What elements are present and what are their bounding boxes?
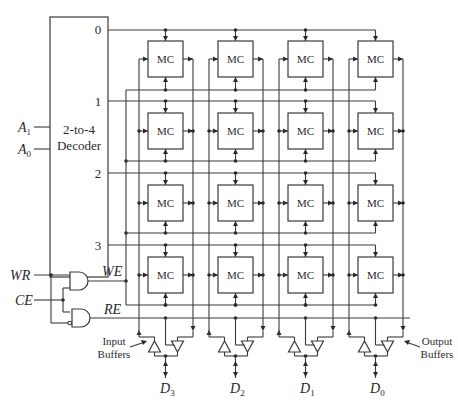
- memory-cell-label: MC: [367, 53, 384, 65]
- memory-cell-label: MC: [157, 125, 174, 137]
- memory-cell: MC: [358, 41, 393, 77]
- output-buffer-icon: [312, 341, 324, 352]
- buffer-pair: [347, 318, 406, 378]
- memory-cell-label: MC: [157, 269, 174, 281]
- memory-cell-label: MC: [297, 53, 314, 65]
- and-gate-we: [70, 272, 88, 290]
- memory-cell-label: MC: [297, 269, 314, 281]
- memory-cell: MC: [148, 185, 183, 221]
- output-buffers-label-line2: Buffers: [421, 348, 454, 360]
- control-logic: WR CE WE RE: [10, 264, 410, 327]
- re-label: RE: [103, 302, 122, 317]
- input-buffers-label-line2: Buffers: [98, 348, 131, 360]
- decoder-label-line1: 2-to-4: [63, 122, 95, 137]
- and-gate-re: [72, 309, 90, 327]
- memory-cell-label: MC: [227, 197, 244, 209]
- memory-cell: MC: [148, 41, 183, 77]
- memory-cell-label: MC: [227, 125, 244, 137]
- memory-cell: MC: [288, 257, 323, 293]
- decoder-output-0: 0: [95, 22, 102, 37]
- memory-array-diagram: 2-to-4 Decoder A1 A0 0 1 2 3 MCMCMCMCMCM…: [0, 0, 458, 405]
- buffer-pair: [277, 318, 336, 378]
- input-buffer-icon: [289, 341, 301, 352]
- memory-cell-label: MC: [367, 125, 384, 137]
- io-buffers: [137, 318, 406, 378]
- decoder-block: 2-to-4 Decoder A1 A0 0 1 2 3: [17, 17, 108, 277]
- output-buffer-icon: [382, 341, 394, 352]
- output-buffers-label-line1: Output: [422, 335, 453, 347]
- input-buffers-label-line1: Input: [102, 335, 125, 347]
- memory-cell: MC: [148, 113, 183, 149]
- data-line-d3: D3: [159, 381, 175, 398]
- output-buffer-icon: [172, 341, 184, 352]
- decoder-output-1: 1: [95, 94, 102, 109]
- decoder-output-2: 2: [95, 166, 102, 181]
- address-input-a1: A1: [17, 120, 31, 137]
- data-line-d2: D2: [229, 381, 245, 398]
- we-label: WE: [102, 264, 123, 279]
- input-buffer-icon: [219, 341, 231, 352]
- memory-cell-label: MC: [227, 53, 244, 65]
- memory-cell: MC: [358, 185, 393, 221]
- memory-cell: MC: [148, 257, 183, 293]
- decoder-output-3: 3: [95, 238, 102, 253]
- memory-cell: MC: [218, 185, 253, 221]
- data-line-d1: D1: [299, 381, 315, 398]
- arrow-icon: [404, 340, 410, 345]
- memory-cell-label: MC: [157, 53, 174, 65]
- ce-input-label: CE: [15, 293, 33, 308]
- buffer-pair: [207, 318, 266, 378]
- buffer-pair: [137, 318, 196, 378]
- memory-cell-label: MC: [367, 197, 384, 209]
- memory-cell: MC: [358, 257, 393, 293]
- data-line-d0: D0: [369, 381, 385, 398]
- memory-cell: MC: [218, 113, 253, 149]
- memory-cell-label: MC: [367, 269, 384, 281]
- memory-cell: MC: [358, 113, 393, 149]
- memory-cell-grid: MCMCMCMCMCMCMCMCMCMCMCMCMCMCMCMC: [108, 28, 405, 330]
- decoder-label-line2: Decoder: [57, 138, 102, 153]
- memory-cell-label: MC: [297, 125, 314, 137]
- input-buffer-icon: [149, 341, 161, 352]
- memory-cell: MC: [218, 257, 253, 293]
- memory-cell: MC: [288, 41, 323, 77]
- input-buffer-icon: [359, 341, 371, 352]
- memory-cell: MC: [288, 113, 323, 149]
- address-input-a0: A0: [17, 142, 32, 159]
- memory-cell: MC: [288, 185, 323, 221]
- memory-cell-label: MC: [227, 269, 244, 281]
- memory-cell-label: MC: [157, 197, 174, 209]
- wr-input-label: WR: [10, 268, 31, 283]
- memory-cell-label: MC: [297, 197, 314, 209]
- data-line-labels: D3 D2 D1 D0: [159, 381, 385, 398]
- memory-cell: MC: [218, 41, 253, 77]
- output-buffer-icon: [242, 341, 254, 352]
